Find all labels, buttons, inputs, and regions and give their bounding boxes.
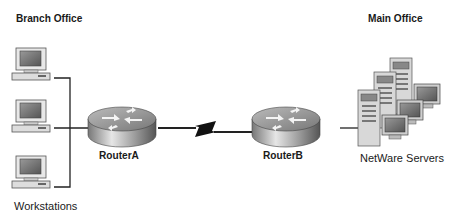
router-a-label: RouterA bbox=[99, 149, 139, 161]
workstation-3-icon bbox=[12, 156, 50, 188]
workstations-label: Workstations bbox=[14, 200, 77, 212]
router-b-icon bbox=[252, 107, 320, 147]
branch-office-label: Branch Office bbox=[16, 12, 82, 24]
serial-link-icon bbox=[195, 121, 216, 137]
netware-servers-label: NetWare Servers bbox=[360, 152, 444, 164]
network-diagram bbox=[0, 0, 451, 217]
netware-servers-icon bbox=[358, 58, 440, 146]
workstation-1-icon bbox=[12, 48, 50, 80]
router-b-label: RouterB bbox=[263, 149, 303, 161]
workstation-2-icon bbox=[12, 100, 50, 132]
main-office-label: Main Office bbox=[368, 12, 423, 24]
router-a-icon bbox=[88, 107, 156, 147]
